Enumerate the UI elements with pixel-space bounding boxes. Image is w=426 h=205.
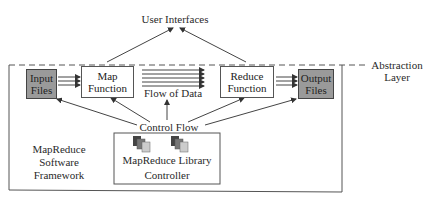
flow-of-data-label: Flow of Data [140,87,206,99]
framework-line1: MapReduce [24,143,94,156]
output-files-line1: Output [299,72,333,84]
abstraction-layer-label: Abstraction Layer [368,59,426,83]
framework-label: MapReduce Software Framework [24,143,94,182]
map-function-line1: Map [82,70,133,82]
abstraction-label-line2: Layer [368,71,426,83]
framework-line3: Framework [24,169,94,182]
map-function-line2: Function [82,82,133,94]
map-function-node: Map Function [81,66,134,98]
abstraction-label-line1: Abstraction [368,59,426,71]
reduce-function-node: Reduce Function [220,66,274,98]
input-files-node: Input Files [26,69,57,99]
library-docs-icon-left [133,136,150,152]
control-flow-label: Control Flow [134,121,204,133]
reduce-function-line2: Function [221,82,273,94]
mapreduce-library-label: MapReduce Library [114,154,220,166]
output-files-node: Output Files [298,69,334,99]
reduce-function-line1: Reduce [221,70,273,82]
controller-label: Controller [114,169,220,181]
framework-line2: Software [24,156,94,169]
input-files-line2: Files [27,84,56,96]
library-docs-icon-right [171,136,188,152]
user-interfaces-label: User Interfaces [140,13,210,25]
input-files-line1: Input [27,72,56,84]
output-files-line2: Files [299,84,333,96]
